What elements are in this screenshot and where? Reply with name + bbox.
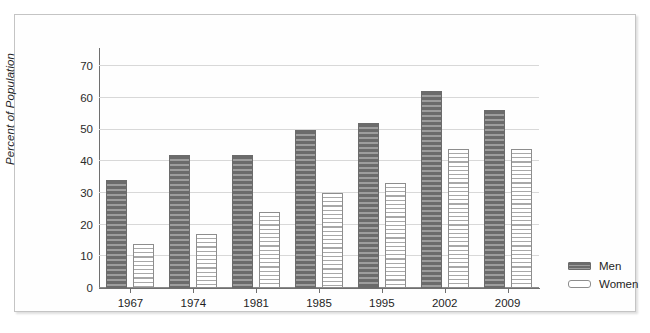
x-tick-mark-2002 — [445, 288, 446, 293]
chart-frame: Percent of Population 010203040506070 Me… — [14, 14, 636, 312]
bar-women-1995 — [385, 183, 406, 288]
legend-swatch-women-icon — [568, 280, 591, 288]
x-tick-mark-1974 — [193, 288, 194, 293]
x-tick-label-1985: 1985 — [306, 297, 332, 309]
x-tick-label-1967: 1967 — [118, 297, 144, 309]
x-tick-mark-1995 — [382, 288, 383, 293]
y-tick-label-0: 0 — [87, 282, 93, 294]
gridline-20 — [99, 224, 539, 225]
y-tick-label-50: 50 — [80, 123, 93, 135]
gridline-10 — [99, 255, 539, 256]
chart-legend: MenWomen — [568, 257, 646, 293]
legend-item-women: Women — [568, 275, 646, 293]
x-tick-label-1981: 1981 — [243, 297, 269, 309]
y-axis-title: Percent of Population — [4, 53, 16, 165]
y-tick-label-70: 70 — [80, 60, 93, 72]
x-tick-label-1974: 1974 — [180, 297, 206, 309]
figure: Percent of Population 010203040506070 Me… — [0, 0, 650, 333]
gridline-60 — [99, 97, 539, 98]
y-tick-label-20: 20 — [80, 219, 93, 231]
gridline-40 — [99, 160, 539, 161]
legend-swatch-men-icon — [568, 262, 591, 270]
bar-men-1981 — [232, 155, 253, 288]
gridline-70 — [99, 65, 539, 66]
y-tick-label-10: 10 — [80, 250, 93, 262]
gridline-30 — [99, 192, 539, 193]
legend-label-men: Men — [599, 260, 621, 272]
gridline-50 — [99, 129, 539, 130]
bar-women-1981 — [259, 212, 280, 288]
bar-women-2009 — [511, 149, 532, 288]
bar-men-1985 — [295, 130, 316, 289]
bar-men-1995 — [358, 123, 379, 288]
y-tick-label-40: 40 — [80, 155, 93, 167]
x-tick-label-2002: 2002 — [432, 297, 458, 309]
bar-men-2002 — [421, 91, 442, 288]
x-tick-mark-1967 — [130, 288, 131, 293]
bar-women-1985 — [322, 193, 343, 288]
bar-men-2009 — [484, 110, 505, 288]
bar-women-2002 — [448, 149, 469, 288]
y-axis-tick-labels: 010203040506070 — [61, 55, 93, 288]
bar-women-1967 — [133, 244, 154, 288]
x-tick-label-1995: 1995 — [369, 297, 395, 309]
legend-label-women: Women — [599, 278, 638, 290]
plot-area — [99, 55, 539, 288]
legend-item-men: Men — [568, 257, 646, 275]
y-tick-label-30: 30 — [80, 187, 93, 199]
bar-men-1974 — [169, 155, 190, 288]
bar-men-1967 — [106, 180, 127, 288]
x-tick-mark-2009 — [508, 288, 509, 293]
x-tick-mark-1985 — [319, 288, 320, 293]
x-tick-label-2009: 2009 — [495, 297, 521, 309]
y-tick-label-60: 60 — [80, 92, 93, 104]
x-tick-mark-1981 — [256, 288, 257, 293]
bar-women-1974 — [196, 234, 217, 288]
